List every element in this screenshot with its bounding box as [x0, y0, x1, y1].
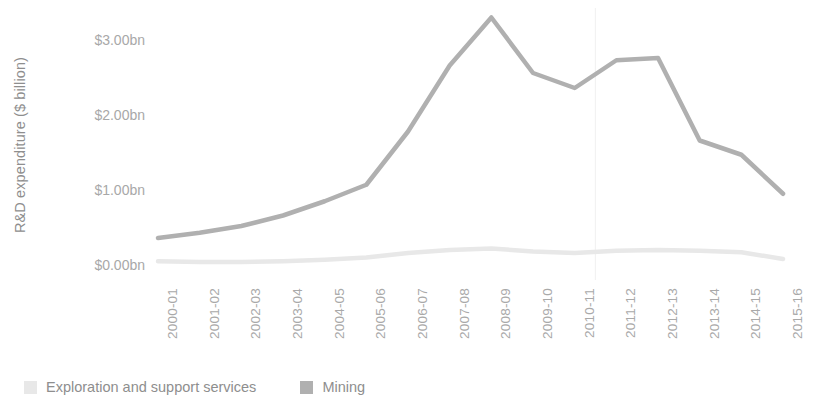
legend-swatch-icon-mining [300, 381, 313, 394]
y-axis-title: R&D expenditure ($ billion) [0, 0, 40, 290]
legend-item-mining[interactable]: Mining [300, 379, 365, 395]
legend-label-mining: Mining [322, 379, 365, 395]
x-axis-tick-labels: 2000-012001-022002-032003-042004-052005-… [137, 288, 805, 366]
y-axis-tick-label: $2.00bn [40, 107, 145, 123]
series-line-mining [158, 18, 783, 239]
x-axis-tick-label: 2008-09 [498, 288, 514, 366]
x-axis-tick-label: 2010-11 [582, 288, 598, 366]
x-axis-tick-label: 2015-16 [790, 288, 806, 366]
x-axis-tick-label: 2002-03 [248, 288, 264, 366]
legend-item-exploration-and-support-services[interactable]: Exploration and support services [24, 379, 256, 395]
y-axis-tick-labels: $0.00bn$1.00bn$2.00bn$3.00bn [40, 0, 145, 411]
x-axis-tick-label: 2000-01 [165, 288, 181, 366]
series-line-exploration-and-support-services [158, 249, 783, 263]
x-axis-tick-label: 2004-05 [332, 288, 348, 366]
line-chart: R&D expenditure ($ billion) $0.00bn$1.00… [0, 0, 815, 411]
x-axis-tick-label: 2011-12 [623, 288, 639, 366]
x-axis-tick-label: 2006-07 [415, 288, 431, 366]
x-axis-tick-label: 2007-08 [457, 288, 473, 366]
plot-area [137, 0, 805, 290]
x-axis-tick-label: 2013-14 [707, 288, 723, 366]
x-axis-tick-label: 2009-10 [540, 288, 556, 366]
x-axis-tick-label: 2001-02 [207, 288, 223, 366]
x-axis-tick-label: 2012-13 [665, 288, 681, 366]
x-axis-tick-label: 2005-06 [373, 288, 389, 366]
y-axis-tick-label: $3.00bn [40, 32, 145, 48]
chart-legend: Exploration and support services Mining [18, 372, 798, 402]
plot-svg [137, 0, 805, 290]
x-axis-tick-label: 2003-04 [290, 288, 306, 366]
legend-label-exploration: Exploration and support services [46, 379, 256, 395]
x-axis-tick-label: 2014-15 [748, 288, 764, 366]
legend-swatch-icon-exploration [24, 381, 37, 394]
y-axis-tick-label: $0.00bn [40, 257, 145, 273]
y-axis-tick-label: $1.00bn [40, 182, 145, 198]
